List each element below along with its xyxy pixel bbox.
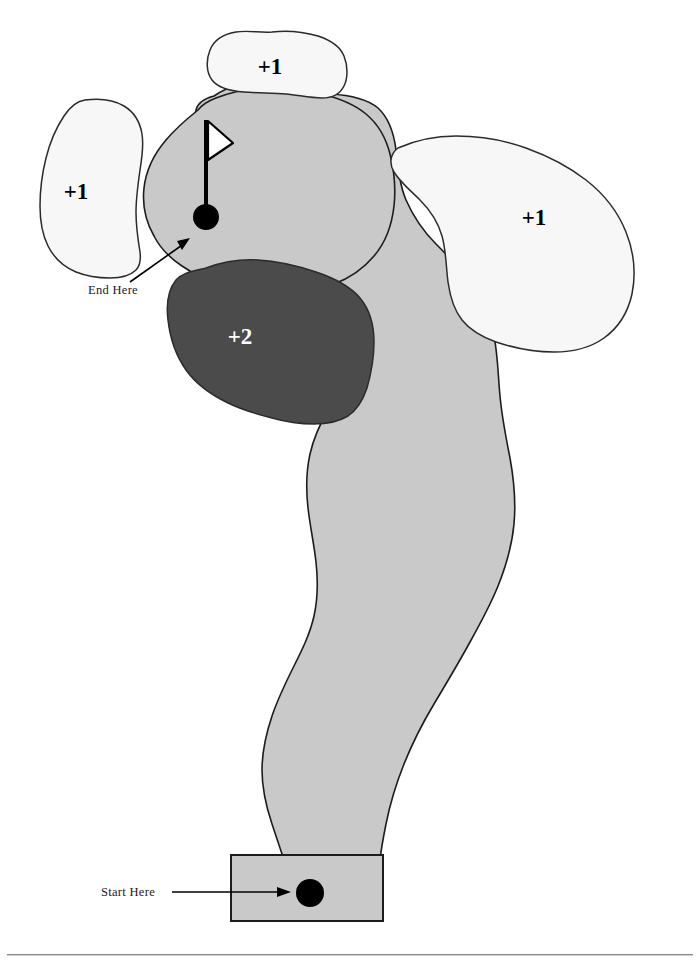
bunker-left-shape (40, 99, 143, 278)
bunker-top-penalty-label: +1 (258, 54, 283, 79)
bunker-left-penalty-label: +1 (64, 179, 89, 204)
end-here-label: End Here (88, 283, 138, 297)
water-hazard-penalty-label: +2 (228, 324, 253, 349)
golf-hole-diagram: End Here Start Here +1 +1 +1 +2 (0, 0, 700, 966)
hole-marker (193, 204, 219, 230)
water-hazard-shape (167, 260, 374, 424)
start-here-label: Start Here (101, 885, 155, 899)
bunker-right-penalty-label: +1 (522, 205, 547, 230)
footer-divider (7, 954, 693, 956)
tee-ball-marker (296, 879, 324, 907)
